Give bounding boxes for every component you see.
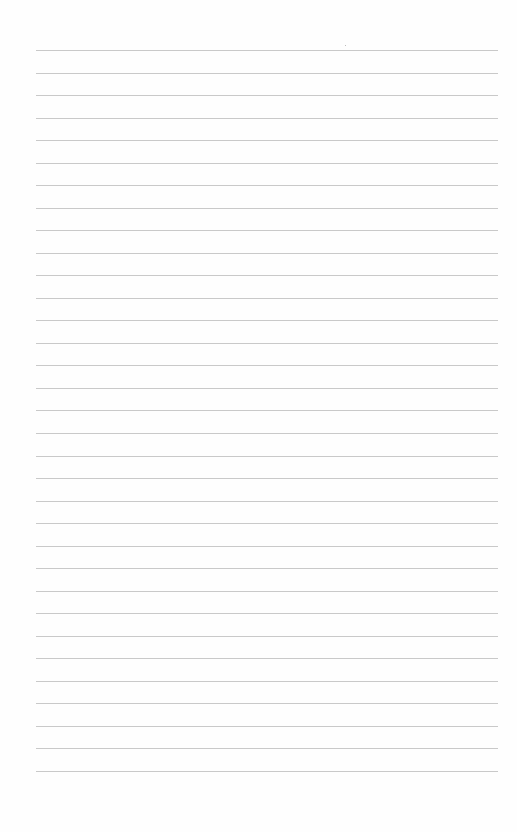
ruled-line — [36, 140, 498, 141]
ruled-line — [36, 726, 498, 727]
ruled-line — [36, 501, 498, 502]
ruled-line — [36, 478, 498, 479]
lined-paper-page — [0, 0, 517, 832]
ruled-line — [36, 748, 498, 749]
ruled-line — [36, 771, 498, 772]
ruled-line — [36, 433, 498, 434]
ruled-line — [36, 118, 498, 119]
ruled-line — [36, 388, 498, 389]
ruled-line — [36, 658, 498, 659]
ruled-line — [36, 275, 498, 276]
ruled-line — [36, 523, 498, 524]
ruled-line — [36, 320, 498, 321]
ruled-line — [36, 185, 498, 186]
ruled-line — [36, 410, 498, 411]
ruled-line — [36, 681, 498, 682]
ruled-line — [36, 613, 498, 614]
ruled-line — [36, 73, 498, 74]
ruled-line — [36, 343, 498, 344]
ruled-line — [36, 456, 498, 457]
ruled-line — [36, 546, 498, 547]
ruled-line — [36, 298, 498, 299]
ruled-line — [36, 636, 498, 637]
ruled-line — [36, 703, 498, 704]
ruled-line — [36, 568, 498, 569]
ruled-line — [36, 365, 498, 366]
paper-speck — [345, 45, 346, 46]
ruled-line — [36, 50, 498, 51]
ruled-line — [36, 253, 498, 254]
ruled-line — [36, 591, 498, 592]
ruled-line — [36, 230, 498, 231]
ruled-line — [36, 95, 498, 96]
ruled-line — [36, 208, 498, 209]
ruled-line — [36, 163, 498, 164]
